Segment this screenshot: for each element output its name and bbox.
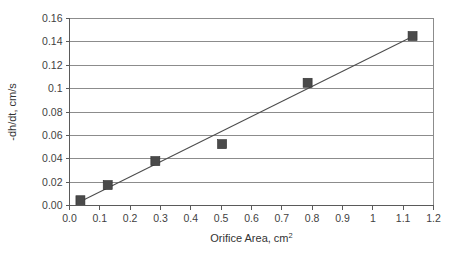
y-tick-label-0.08: 0.08	[42, 106, 63, 118]
x-tick-label-0.1: 0.1	[93, 212, 108, 224]
data-point-0-1	[103, 181, 112, 190]
x-tick-label-0.3: 0.3	[153, 212, 168, 224]
x-tick-label-0.5: 0.5	[214, 212, 229, 224]
x-tick-label-0.0: 0.0	[62, 212, 77, 224]
x-axis-title-superscript: 2	[289, 231, 293, 240]
data-point-0-3	[218, 140, 227, 149]
y-tick-label-0.02: 0.02	[42, 176, 63, 188]
data-point-0-5	[408, 32, 417, 41]
x-tick-label-0.8: 0.8	[305, 212, 320, 224]
x-axis-title: Orifice Area, cm2	[210, 231, 292, 244]
y-tick-label-0.00: 0.00	[42, 199, 63, 211]
y-tick-label-0.14: 0.14	[42, 35, 63, 47]
chart-figure: 0.000.020.040.060.080.10.120.140.160.00.…	[0, 0, 459, 261]
x-tick-label-0.6: 0.6	[244, 212, 259, 224]
x-tick-label-0.7: 0.7	[275, 212, 290, 224]
y-tick-label-0.04: 0.04	[42, 152, 63, 164]
x-tick-label-0.4: 0.4	[184, 212, 199, 224]
data-point-0-4	[303, 78, 312, 87]
data-point-0-2	[151, 157, 160, 166]
x-tick-label-0.9: 0.9	[335, 212, 350, 224]
x-tick-label-1.2: 1.2	[426, 212, 441, 224]
x-tick-label-0.2: 0.2	[123, 212, 138, 224]
y-tick-label-0.12: 0.12	[42, 59, 63, 71]
data-point-0-0	[76, 196, 85, 205]
trend-line	[80, 37, 412, 202]
x-tick-label-1: 1	[370, 212, 376, 224]
x-tick-label-1.1: 1.1	[396, 212, 411, 224]
y-tick-label-0.1: 0.1	[48, 82, 63, 94]
orifice-area-vs-drain-rate-chart: 0.000.020.040.060.080.10.120.140.160.00.…	[0, 0, 459, 261]
y-tick-label-0.16: 0.16	[42, 12, 63, 24]
y-tick-label-0.06: 0.06	[42, 129, 63, 141]
y-axis-title: -dh/dt, cm/s	[6, 83, 18, 141]
